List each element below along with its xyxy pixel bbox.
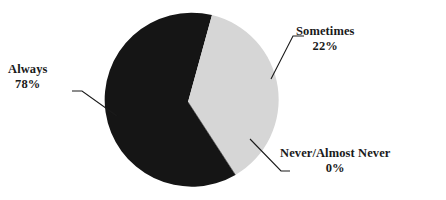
- slice-label-never: Never/Almost Never 0%: [280, 146, 390, 176]
- slice-label-sometimes-name: Sometimes: [296, 24, 355, 39]
- slice-label-always-name: Always: [8, 62, 48, 77]
- slice-label-always-value: 78%: [8, 77, 48, 92]
- slice-label-sometimes: Sometimes 22%: [296, 24, 355, 54]
- slice-label-always: Always 78%: [8, 62, 48, 92]
- slice-label-never-name: Never/Almost Never: [280, 146, 390, 161]
- pie-chart: Sometimes 22% Always 78% Never/Almost Ne…: [0, 0, 446, 200]
- slice-label-sometimes-value: 22%: [296, 39, 355, 54]
- slice-label-never-value: 0%: [280, 161, 390, 176]
